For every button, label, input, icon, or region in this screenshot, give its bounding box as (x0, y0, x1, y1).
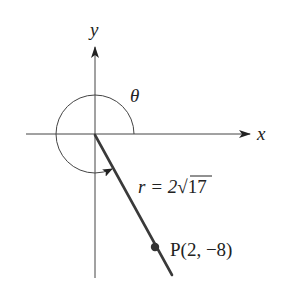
x-axis-label: x (256, 123, 266, 144)
radius-label-text: r = 2 (138, 176, 178, 197)
point-p (151, 243, 159, 251)
radius-label-radical: √17 (177, 176, 206, 197)
theta-label: θ (130, 85, 139, 106)
y-axis-label: y (88, 19, 99, 40)
point-label: P(2, −8) (170, 239, 232, 261)
radius-label: r = 2√17 (138, 176, 207, 197)
angle-diagram: y x θ r = 2√17 P(2, −8) (0, 0, 281, 298)
terminal-ray (95, 135, 172, 275)
